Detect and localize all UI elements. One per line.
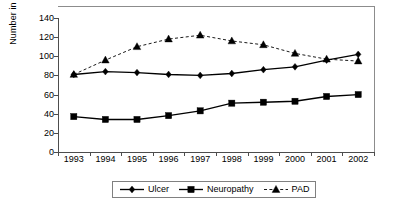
series-svg [58, 18, 374, 152]
legend-entry-pad: PAD [263, 184, 310, 195]
y-tick-label: 60 [28, 91, 54, 100]
x-tick-label: 1996 [152, 154, 186, 164]
data-point-marker [324, 93, 330, 99]
x-tick-label: 1997 [183, 154, 217, 164]
series-pad [70, 31, 362, 77]
data-point-marker [166, 71, 172, 78]
x-tick-label: 1995 [120, 154, 154, 164]
series-line [74, 35, 358, 74]
y-tick-label: 20 [28, 129, 54, 138]
chart-legend: UlcerNeuropathyPAD [112, 181, 316, 198]
legend-label: Neuropathy [207, 184, 254, 195]
x-tick-label: 2002 [341, 154, 375, 164]
legend-marker-square-icon [178, 184, 204, 195]
y-tick-label: 100 [28, 52, 54, 61]
data-point-marker [355, 91, 361, 97]
data-point-marker [354, 57, 362, 64]
legend-marker-triangle-icon [263, 184, 289, 195]
chart-right-rule [374, 6, 375, 153]
data-point-marker [261, 66, 267, 73]
y-axis-tick-labels: 020406080100120140 [26, 0, 54, 209]
legend-entry-neuropathy: Neuropathy [178, 184, 254, 195]
data-point-marker [197, 108, 203, 114]
data-point-marker [292, 63, 298, 70]
data-point-marker [102, 56, 110, 63]
y-tick-label: 40 [28, 110, 54, 119]
legend-marker-diamond-icon [119, 184, 145, 195]
x-tick-label: 1998 [215, 154, 249, 164]
data-point-marker [229, 100, 235, 106]
y-tick-label: 140 [28, 14, 54, 23]
legend-entry-ulcer: Ulcer [119, 184, 169, 195]
data-point-marker [134, 116, 140, 122]
data-point-marker [134, 69, 140, 76]
data-point-marker [196, 31, 204, 38]
data-point-marker [229, 70, 235, 77]
x-tick-label: 2000 [278, 154, 312, 164]
series-neuropathy [71, 91, 362, 122]
x-tick-label: 1994 [88, 154, 122, 164]
data-point-marker [197, 72, 203, 79]
data-point-marker [166, 113, 172, 119]
chart-top-rule [58, 6, 375, 7]
y-tick-label: 120 [28, 33, 54, 42]
data-point-marker [103, 68, 109, 75]
data-point-marker [292, 98, 298, 104]
y-tick-label: 80 [28, 71, 54, 80]
data-point-marker [102, 116, 108, 122]
line-chart: Number in thousands 020406080100120140 1… [0, 0, 394, 209]
series-ulcer [71, 51, 361, 79]
y-axis-title: Number in thousands [6, 0, 20, 56]
x-tick-label: 1993 [57, 154, 91, 164]
x-tick-label: 2001 [310, 154, 344, 164]
plot-area [58, 18, 374, 152]
legend-label: PAD [292, 184, 310, 195]
y-tick-label: 0 [28, 148, 54, 157]
data-point-marker [71, 113, 77, 119]
data-point-marker [260, 99, 266, 105]
series-line [74, 95, 358, 120]
x-tick-label: 1999 [246, 154, 280, 164]
legend-label: Ulcer [148, 184, 169, 195]
